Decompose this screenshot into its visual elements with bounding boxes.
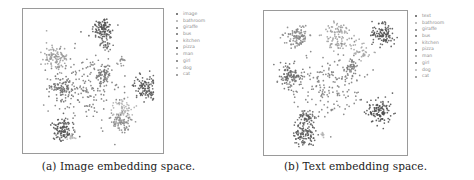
scatter-plot-image-embedding — [22, 8, 164, 154]
legend-image-embedding: image bathroom giraffe bus kitchen pizza… — [176, 11, 205, 78]
legend-label: bus — [422, 33, 430, 40]
legend-marker-icon — [415, 42, 417, 44]
legend-item: dog — [415, 67, 444, 74]
panel-image-embedding: image bathroom giraffe bus kitchen pizza… — [0, 0, 237, 180]
legend-marker-icon — [415, 22, 417, 24]
scatter-points — [23, 9, 163, 153]
legend-item: pizza — [176, 44, 205, 51]
legend-label: bathroom — [183, 18, 205, 25]
caption-image-embedding: (a) Image embedding space. — [0, 160, 237, 172]
legend-item: text — [415, 13, 444, 20]
legend-item: girl — [176, 58, 205, 65]
legend-label: girl — [422, 60, 429, 67]
legend-item: pizza — [415, 46, 444, 53]
legend-label: bus — [183, 31, 191, 38]
legend-label: text — [422, 13, 431, 20]
panel-text-embedding: text bathroom giraffe bus kitchen pizza … — [237, 0, 474, 180]
legend-label: cat — [422, 73, 429, 80]
legend-item: image — [176, 11, 205, 18]
legend-item: giraffe — [415, 26, 444, 33]
legend-label: kitchen — [183, 38, 200, 45]
legend-text-embedding: text bathroom giraffe bus kitchen pizza … — [415, 13, 444, 80]
legend-label: pizza — [422, 46, 434, 53]
legend-marker-icon — [176, 20, 178, 22]
legend-label: kitchen — [422, 40, 439, 47]
legend-label: dog — [422, 67, 431, 74]
legend-marker-icon — [415, 55, 417, 57]
legend-marker-icon — [176, 33, 178, 35]
legend-label: cat — [183, 71, 190, 78]
legend-item: kitchen — [176, 38, 205, 45]
legend-item: cat — [415, 73, 444, 80]
legend-label: dog — [183, 65, 192, 72]
legend-item: girl — [415, 60, 444, 67]
scatter-points — [264, 11, 407, 155]
legend-marker-icon — [176, 60, 178, 62]
legend-marker-icon — [176, 47, 178, 49]
legend-label: pizza — [183, 44, 195, 51]
legend-marker-icon — [415, 62, 417, 64]
legend-label: giraffe — [422, 26, 437, 33]
legend-marker-icon — [415, 69, 417, 71]
legend-item: kitchen — [415, 40, 444, 47]
legend-item: bus — [176, 31, 205, 38]
caption-text-embedding: (b) Text embedding space. — [237, 160, 474, 172]
legend-label: man — [183, 51, 193, 58]
legend-item: man — [176, 51, 205, 58]
legend-marker-icon — [176, 67, 178, 69]
legend-marker-icon — [415, 29, 417, 31]
legend-marker-icon — [176, 27, 178, 29]
legend-item: bathroom — [176, 18, 205, 25]
legend-marker-icon — [415, 35, 417, 37]
legend-marker-icon — [415, 49, 417, 51]
legend-label: bathroom — [422, 20, 444, 27]
legend-item: cat — [176, 71, 205, 78]
legend-label: image — [183, 11, 197, 18]
legend-label: girl — [183, 58, 190, 65]
legend-label: man — [422, 53, 432, 60]
legend-item: giraffe — [176, 24, 205, 31]
legend-marker-icon — [176, 40, 178, 42]
legend-item: dog — [176, 65, 205, 72]
legend-marker-icon — [415, 15, 417, 17]
legend-item: bathroom — [415, 20, 444, 27]
legend-marker-icon — [176, 53, 178, 55]
legend-marker-icon — [415, 76, 417, 78]
legend-item: bus — [415, 33, 444, 40]
legend-item: man — [415, 53, 444, 60]
legend-marker-icon — [176, 74, 178, 76]
legend-label: giraffe — [183, 24, 198, 31]
legend-marker-icon — [176, 13, 178, 15]
scatter-plot-text-embedding — [263, 10, 408, 156]
